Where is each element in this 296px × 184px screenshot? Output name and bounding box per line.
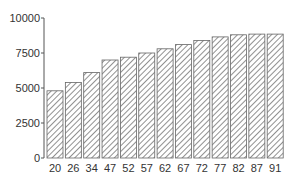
y-tick-label: 5000 [16,82,40,94]
x-tick-label: 77 [214,162,226,174]
x-tick-label: 20 [49,162,61,174]
y-tick-label: 2500 [16,117,40,129]
bar-72 [194,40,210,158]
bar-91 [267,34,283,158]
x-tick-label: 72 [196,162,208,174]
x-tick-label: 62 [159,162,171,174]
x-tick-label: 91 [269,162,281,174]
bar-62 [157,49,173,158]
bar-82 [231,35,247,158]
bar-47 [102,60,118,158]
bars [47,34,283,158]
bar-20 [47,91,63,158]
x-tick-label: 67 [177,162,189,174]
y-tick-label: 0 [34,152,40,164]
x-tick-label: 26 [67,162,79,174]
y-tick-label: 10000 [9,12,40,24]
bar-67 [175,45,191,158]
x-axis-labels: 20263447525762677277828791 [49,162,281,174]
x-tick-label: 82 [232,162,244,174]
x-tick-label: 34 [86,162,98,174]
x-tick-label: 57 [141,162,153,174]
bar-52 [120,57,136,158]
x-tick-label: 52 [122,162,134,174]
y-tick-label: 7500 [16,47,40,59]
bar-87 [249,34,265,158]
bar-77 [212,37,228,158]
bar-chart: 025005000750010000 202634475257626772778… [0,0,296,184]
bar-26 [65,82,81,158]
bar-57 [139,53,155,158]
bar-34 [84,73,100,158]
x-tick-label: 87 [251,162,263,174]
y-axis: 025005000750010000 [9,12,44,164]
x-tick-label: 47 [104,162,116,174]
